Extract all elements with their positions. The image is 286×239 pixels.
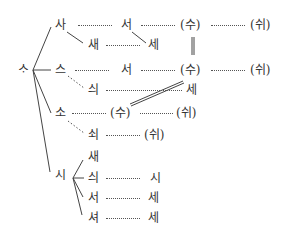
dotted-connector	[106, 178, 140, 179]
dotted-connector	[106, 198, 140, 199]
node-sae-se: 세	[148, 38, 159, 52]
node-seui-se: 세	[186, 83, 197, 97]
branch-si-sae	[73, 160, 83, 178]
branch-root-si	[33, 70, 50, 172]
dotted-connector	[106, 218, 140, 219]
node-soe: 쇠	[88, 128, 99, 142]
node-si-syeo: 셔	[88, 211, 99, 225]
node-soe-swi: (쉬)	[144, 128, 164, 142]
node-sa-seo: 서	[121, 18, 132, 32]
node-si-seui: 싀	[88, 171, 99, 185]
dotted-connector	[211, 25, 245, 26]
branch-seu-seui	[68, 76, 84, 88]
branch-sa-sae	[67, 32, 83, 43]
branch-seo-se	[132, 32, 146, 43]
node-seu-swi: (쉬)	[250, 63, 270, 77]
node-seui: 싀	[88, 83, 99, 97]
dotted-connector	[72, 113, 106, 114]
dotted-connector	[106, 90, 182, 91]
branch-si-syeo	[73, 178, 82, 215]
branch-so-soe	[68, 121, 84, 133]
node-si-syeo-se: 세	[148, 211, 159, 225]
node-so-su: (수)	[110, 106, 130, 120]
dotted-connector	[106, 135, 140, 136]
branch-si-seo	[73, 178, 83, 197]
node-sa: 사	[55, 18, 66, 32]
node-sa-swi: (쉬)	[250, 18, 270, 32]
root-node: ᄉᆞ	[18, 63, 29, 77]
node-so-swi: (쉬)	[176, 106, 196, 120]
dotted-connector	[106, 45, 140, 46]
dotted-connector	[78, 25, 112, 26]
node-si-seo: 서	[88, 191, 99, 205]
branch-root-so	[33, 70, 51, 113]
node-sa-su: (수)	[180, 18, 200, 32]
node-si-seo-se: 세	[148, 191, 159, 205]
node-seu-seo: 서	[121, 63, 132, 77]
dotted-connector	[75, 70, 109, 71]
node-seu-su: (수)	[180, 63, 200, 77]
node-sae: 새	[88, 38, 99, 52]
node-si-seui-si: 시	[150, 171, 161, 185]
node-seu: 스	[55, 63, 66, 77]
dotted-connector	[140, 113, 173, 114]
node-so: 소	[55, 106, 66, 120]
node-si: 시	[55, 168, 66, 182]
tree-lines	[0, 0, 286, 239]
dotted-connector	[141, 25, 175, 26]
dotted-connector	[211, 70, 245, 71]
dotted-connector	[141, 70, 175, 71]
branch-root-sa	[33, 27, 51, 70]
node-si-sae: 새	[88, 150, 99, 164]
